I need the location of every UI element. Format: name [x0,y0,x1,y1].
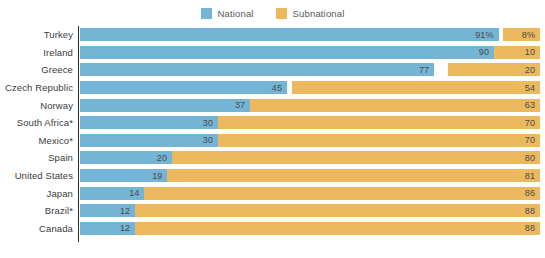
bar-value-subnational: 10 [525,47,540,57]
category-label: United States [0,170,73,181]
bar-row[interactable]: Turkey91%8% [0,26,545,44]
bar-track: 2080 [80,151,540,164]
category-label: Japan [0,188,73,199]
bar-segment-national[interactable]: 20 [80,151,172,164]
bar-segment-subnational[interactable]: 10 [494,46,540,59]
bar-segment-national[interactable]: 12 [80,222,135,235]
bar-track: 3070 [80,116,540,129]
category-label: Turkey [0,29,73,40]
bar-track: 4554 [80,81,540,94]
bar-segment-subnational[interactable]: 86 [144,187,540,200]
bar-value-subnational: 88 [525,223,540,233]
bar-segment-subnational[interactable]: 81 [167,169,540,182]
category-label: Ireland [0,47,73,58]
plot-area: Turkey91%8%Ireland9010Greece7720Czech Re… [0,26,545,248]
bar-value-national: 12 [120,206,135,216]
category-label: South Africa* [0,117,73,128]
bar-segment-national[interactable]: 14 [80,187,144,200]
bar-segment-subnational[interactable]: 70 [218,116,540,129]
legend-national-label: National [218,8,254,19]
bar-row[interactable]: United States1981 [0,167,545,185]
bar-segment-subnational[interactable]: 88 [135,204,540,217]
category-label: Canada [0,223,73,234]
legend-national[interactable]: National [201,8,254,19]
bar-value-subnational: 88 [525,206,540,216]
category-label: Czech Republic [0,82,73,93]
bar-row[interactable]: Brazil*1288 [0,202,545,220]
chart-legend: NationalSubnational [0,8,545,19]
bar-segment-national[interactable]: 12 [80,204,135,217]
bar-segment-national[interactable]: 19 [80,169,167,182]
bar-value-national: 20 [157,153,172,163]
bar-segment-national[interactable]: 77 [80,63,434,76]
bar-segment-national[interactable]: 90 [80,46,494,59]
bar-value-subnational: 8% [522,30,540,40]
bar-row[interactable]: Spain2080 [0,149,545,167]
bar-value-national: 14 [129,188,144,198]
bar-value-subnational: 70 [525,118,540,128]
bar-value-national: 12 [120,223,135,233]
bar-value-national: 37 [235,100,250,110]
bar-track: 1486 [80,187,540,200]
bar-value-subnational: 80 [525,153,540,163]
bar-track: 1288 [80,222,540,235]
bar-rows: Turkey91%8%Ireland9010Greece7720Czech Re… [0,26,545,237]
stacked-bar-chart: NationalSubnational Turkey91%8%Ireland90… [0,0,545,258]
bar-row[interactable]: Japan1486 [0,184,545,202]
bar-segment-subnational[interactable]: 88 [135,222,540,235]
category-label: Mexico* [0,135,73,146]
bar-value-national: 30 [203,135,218,145]
bar-row[interactable]: Canada1288 [0,220,545,238]
bar-segment-national[interactable]: 45 [80,81,287,94]
bar-value-national: 45 [272,83,287,93]
bar-row[interactable]: Norway3763 [0,96,545,114]
bar-track: 3070 [80,134,540,147]
bar-value-subnational: 81 [525,171,540,181]
bar-segment-subnational[interactable]: 54 [292,81,540,94]
legend-subnational-label: Subnational [293,8,345,19]
bar-segment-subnational[interactable]: 80 [172,151,540,164]
bar-segment-national[interactable]: 37 [80,99,250,112]
bar-value-subnational: 70 [525,135,540,145]
bar-row[interactable]: Mexico*3070 [0,132,545,150]
bar-track: 9010 [80,46,540,59]
bar-segment-national[interactable]: 30 [80,116,218,129]
bar-track: 1981 [80,169,540,182]
bar-value-subnational: 86 [525,188,540,198]
legend-national-swatch-icon [201,8,212,19]
legend-subnational-swatch-icon [276,8,287,19]
bar-value-national: 77 [419,65,434,75]
bar-track: 7720 [80,63,540,76]
bar-segment-subnational[interactable]: 70 [218,134,540,147]
bar-value-national: 91% [475,30,498,40]
category-label: Norway [0,100,73,111]
bar-track: 1288 [80,204,540,217]
bar-segment-subnational[interactable]: 8% [503,28,540,41]
bar-track: 3763 [80,99,540,112]
bar-segment-national[interactable]: 30 [80,134,218,147]
bar-value-national: 90 [479,47,494,57]
bar-row[interactable]: Ireland9010 [0,44,545,62]
bar-value-national: 30 [203,118,218,128]
bar-segment-national[interactable]: 91% [80,28,499,41]
bar-row[interactable]: Greece7720 [0,61,545,79]
bar-value-subnational: 54 [525,83,540,93]
bar-row[interactable]: Czech Republic4554 [0,79,545,97]
bar-value-subnational: 20 [525,65,540,75]
bar-segment-subnational[interactable]: 20 [448,63,540,76]
bar-segment-subnational[interactable]: 63 [250,99,540,112]
bar-track: 91%8% [80,28,540,41]
bar-row[interactable]: South Africa*3070 [0,114,545,132]
category-label: Greece [0,64,73,75]
category-label: Spain [0,152,73,163]
bar-value-national: 19 [152,171,167,181]
bar-value-subnational: 63 [525,100,540,110]
category-label: Brazil* [0,205,73,216]
legend-subnational[interactable]: Subnational [276,8,345,19]
